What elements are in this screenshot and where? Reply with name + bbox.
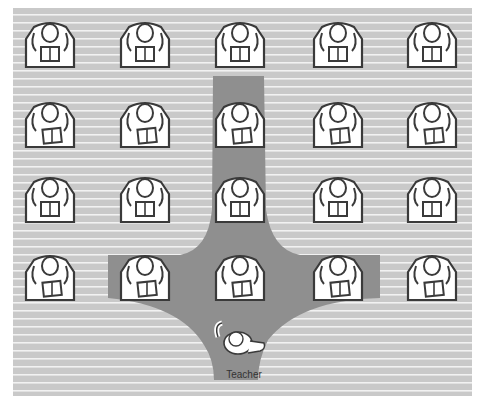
book-icon bbox=[330, 281, 349, 297]
student-desk bbox=[216, 23, 264, 67]
student-desk bbox=[26, 23, 74, 67]
book-icon bbox=[329, 202, 347, 216]
book-icon bbox=[231, 47, 249, 61]
book-icon bbox=[41, 202, 59, 216]
book-icon bbox=[232, 281, 251, 297]
student-desk bbox=[26, 103, 74, 147]
student-desk bbox=[408, 256, 456, 300]
student-desk bbox=[314, 256, 362, 300]
book-icon bbox=[231, 202, 249, 216]
book-icon bbox=[42, 128, 61, 144]
book-icon bbox=[137, 128, 156, 144]
book-icon bbox=[423, 47, 441, 61]
student-desk bbox=[408, 23, 456, 67]
student-desk bbox=[216, 103, 264, 147]
student-desk bbox=[216, 178, 264, 222]
student-desk bbox=[26, 178, 74, 222]
book-icon bbox=[329, 47, 347, 61]
book-icon bbox=[137, 281, 156, 297]
student-desk bbox=[408, 103, 456, 147]
student-desk bbox=[121, 256, 169, 300]
student-desk bbox=[216, 256, 264, 300]
book-icon bbox=[232, 128, 251, 144]
teacher-label: Teacher bbox=[0, 369, 488, 380]
book-icon bbox=[423, 202, 441, 216]
student-desk bbox=[121, 23, 169, 67]
student-desk bbox=[121, 103, 169, 147]
book-icon bbox=[41, 47, 59, 61]
book-icon bbox=[136, 47, 154, 61]
student-desk bbox=[26, 256, 74, 300]
student-desk bbox=[314, 178, 362, 222]
student-desk bbox=[121, 178, 169, 222]
book-icon bbox=[136, 202, 154, 216]
student-desk bbox=[314, 103, 362, 147]
student-desk bbox=[314, 23, 362, 67]
book-icon bbox=[424, 281, 443, 297]
book-icon bbox=[42, 281, 61, 297]
book-icon bbox=[424, 128, 443, 144]
student-desk bbox=[408, 178, 456, 222]
classroom-diagram bbox=[0, 0, 488, 406]
book-icon bbox=[330, 128, 349, 144]
